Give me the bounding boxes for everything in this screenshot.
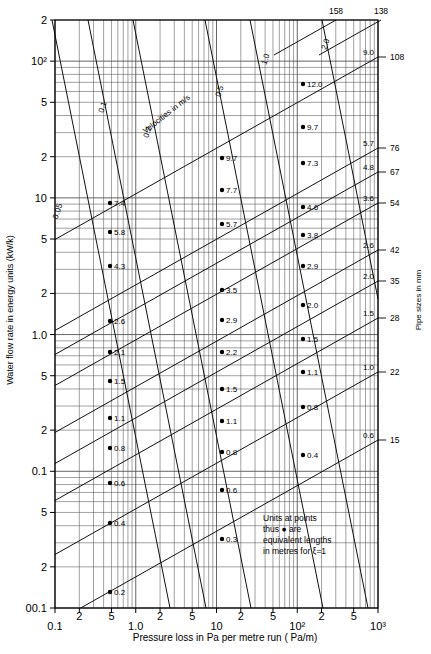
point-marker: [108, 201, 112, 205]
point-label-column_mid-3: 3.5: [226, 286, 238, 295]
pipe-size-label-42: 42: [390, 245, 400, 255]
point-marker: [301, 161, 305, 165]
point-label-column_right-9: 0.8: [307, 403, 319, 412]
x-tick-label-4: 2: [157, 610, 163, 622]
point-label-column_left-5: 1.5: [114, 377, 126, 386]
point-label-column_left-10: 0.2: [114, 588, 126, 597]
pipe-velocity-label-42: 2.6: [363, 241, 375, 250]
y-tick-label-12: 2: [41, 561, 47, 573]
point-marker: [301, 303, 305, 307]
pipe-velocity-label-15: 0.6: [363, 431, 375, 440]
point-marker: [301, 337, 305, 341]
pipe-size-annotations: [378, 57, 386, 440]
point-marker: [108, 416, 112, 420]
x-tick-label-12: 10³: [370, 620, 386, 632]
pipe-velocity-label-76: 5.7: [363, 139, 375, 148]
point-label-column_left-3: 2.6: [114, 317, 126, 326]
point-label-column_left-6: 1.1: [114, 414, 126, 423]
point-marker: [220, 488, 224, 492]
point-marker: [108, 264, 112, 268]
point-marker: [108, 350, 112, 354]
point-label-column_left-8: 0.6: [114, 479, 126, 488]
point-label-column_mid-1: 7.7: [226, 186, 238, 195]
y-tick-label-7: 1.0: [32, 329, 47, 341]
pipe-velocity-label-67: 4.8: [363, 163, 375, 172]
pipe-size-label-15: 15: [390, 435, 400, 445]
point-marker: [220, 537, 224, 541]
pipe-velocity-label-35: 2.0: [363, 272, 375, 281]
point-label-column_left-7: 0.8: [114, 444, 126, 453]
point-label-column_mid-4: 2.9: [226, 316, 238, 325]
point-marker: [108, 590, 112, 594]
y-tick-label-4: 10: [35, 192, 47, 204]
point-marker: [220, 188, 224, 192]
point-marker: [220, 387, 224, 391]
point-label-column_right-3: 4.6: [307, 203, 319, 212]
point-marker: [301, 125, 305, 129]
point-label-column_mid-7: 1.1: [226, 417, 238, 426]
point-label-column_right-6: 2.0: [307, 301, 319, 310]
y-tick-label-13: 00.1: [26, 602, 47, 614]
x-tick-label-11: 5: [351, 610, 357, 622]
point-label-column_mid-0: 9.7: [226, 154, 238, 163]
note-line-4: in metres for ξ=1: [263, 546, 326, 556]
point-label-column_right-0: 12.0: [307, 80, 323, 89]
point-marker: [108, 481, 112, 485]
x-tick-label-1: 2: [76, 610, 82, 622]
y-tick-label-9: 2: [41, 424, 47, 436]
point-label-column_mid-8: 0.8: [226, 448, 238, 457]
point-marker: [108, 446, 112, 450]
point-marker: [220, 288, 224, 292]
pipe-size-label-35: 35: [390, 276, 400, 286]
pipe-size-label-108: 108: [390, 52, 404, 62]
point-label-column_right-10: 0.4: [307, 451, 319, 460]
x-tick-label-0: 0.1: [47, 620, 62, 632]
y-axis-label: Water flow rate in energy units (kW/k): [5, 235, 15, 385]
point-label-column_mid-5: 2.2: [226, 348, 238, 357]
pipe-size-label-76: 76: [390, 143, 400, 153]
pipe-size-label-158: 158: [329, 6, 343, 16]
point-label-column_right-4: 3.8: [307, 231, 319, 240]
velocity-line-0.05: [52, 20, 170, 608]
point-label-column_mid-10: 0.3: [226, 535, 238, 544]
y-tick-label-6: 2: [41, 287, 47, 299]
note-line-2: thus ● are: [263, 524, 301, 534]
x-tick-label-5: 5: [189, 610, 195, 622]
pipe-size-label-28: 28: [390, 313, 400, 323]
point-marker: [108, 379, 112, 383]
point-marker: [220, 156, 224, 160]
point-marker: [301, 370, 305, 374]
y2-axis-label: Pipe sizes in mm: [414, 269, 423, 330]
point-marker: [108, 521, 112, 525]
pipe-velocity-label-28: 1.5: [363, 309, 375, 318]
pipe-size-label-54: 54: [390, 198, 400, 208]
x-axis-label: Pressure loss in Pa per metre run ( Pa/m…: [133, 632, 318, 643]
pipe-size-label-22: 22: [390, 367, 400, 377]
y-tick-label-10: 0.1: [32, 465, 47, 477]
y-tick-label-2: 5: [41, 96, 47, 108]
chart-root: 0.050.10.20.51.02.0Velocities in m/s0.12…: [0, 0, 431, 654]
pipe-sizing-nomogram: 0.050.10.20.51.02.0Velocities in m/s0.12…: [0, 0, 431, 654]
x-tick-label-9: 10²: [289, 620, 305, 632]
y-tick-label-1: 10²: [31, 55, 47, 67]
point-label-column_right-2: 7.3: [307, 159, 319, 168]
point-label-column_right-8: 1.1: [307, 368, 319, 377]
note-line-1: Units at points: [263, 513, 317, 523]
point-marker: [301, 82, 305, 86]
point-marker: [301, 405, 305, 409]
y-tick-label-11: 5: [41, 506, 47, 518]
point-label-column_mid-9: 0.6: [226, 486, 238, 495]
point-label-column_right-5: 2.9: [307, 262, 319, 271]
point-marker: [220, 350, 224, 354]
point-marker: [301, 233, 305, 237]
x-tick-label-3: 1.0: [128, 620, 143, 632]
velocity-label-0.5: 0.5: [214, 84, 226, 98]
point-label-column_left-4: 2.1: [114, 348, 126, 357]
pipe-velocity-label-108: 9.0: [363, 48, 375, 57]
x-tick-label-10: 2: [318, 610, 324, 622]
point-marker: [220, 450, 224, 454]
point-label-column_left-1: 5.8: [114, 228, 126, 237]
y-tick-label-0: 2: [41, 14, 47, 26]
note-line-3: equivalent lengths: [263, 535, 332, 545]
x-tick-label-8: 5: [270, 610, 276, 622]
